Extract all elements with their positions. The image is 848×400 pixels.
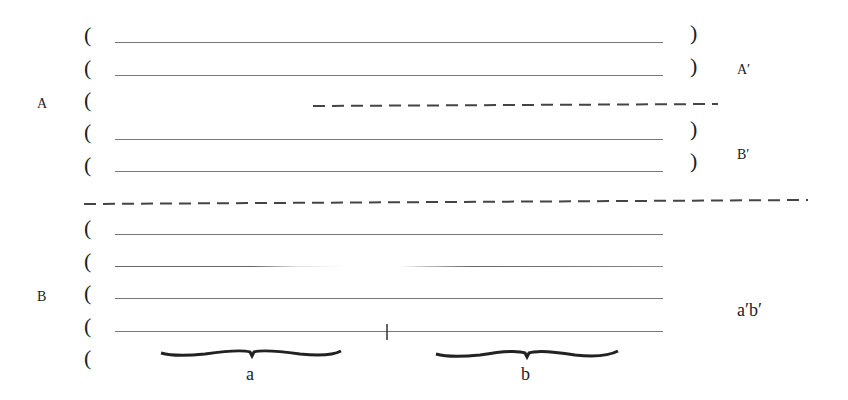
dashed-divider-long [84,200,808,204]
diagram-strokes [0,0,848,400]
brace-b [436,351,618,357]
brace-a [161,351,341,356]
diagram-canvas: ( ( ( ( ( ) ) ) ) A B A′ B′ a′b′ ( ( ( (… [0,0,848,400]
dashed-divider-short [313,104,718,106]
